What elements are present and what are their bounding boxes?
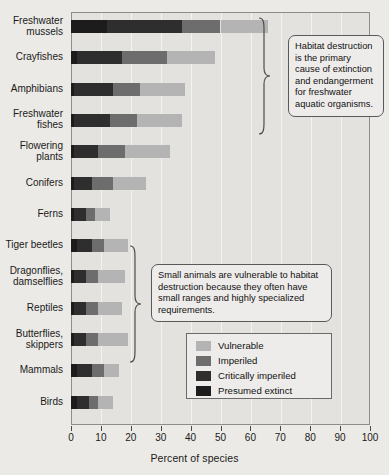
bar-segment xyxy=(71,20,107,33)
bar-segment xyxy=(86,302,98,315)
category-label: Crayfishes xyxy=(16,51,63,62)
legend-item: Vulnerable xyxy=(196,338,331,353)
bar-segment xyxy=(113,83,140,96)
legend-swatch-vulnerable xyxy=(196,341,211,351)
category-label: Freshwater mussels xyxy=(13,15,63,37)
x-tick-label: 30 xyxy=(146,432,176,443)
bar-segment xyxy=(98,270,125,283)
x-tick-label: 80 xyxy=(295,432,325,443)
bar-segment xyxy=(74,114,110,127)
bar-segment xyxy=(77,51,122,64)
chart-root: Freshwater musselsCrayfishesAmphibiansFr… xyxy=(0,0,389,475)
bar-segment xyxy=(140,83,185,96)
x-tick-label: 10 xyxy=(86,432,116,443)
annotation-small-animals-callout: Small animals are vulnerable to habitat … xyxy=(151,264,332,322)
bar-segment xyxy=(74,270,86,283)
x-tick xyxy=(221,426,222,431)
bar-segment xyxy=(92,177,113,190)
x-tick-label: 20 xyxy=(116,432,146,443)
category-label: Birds xyxy=(40,396,63,407)
bar-segment xyxy=(98,333,128,346)
bar-segment xyxy=(86,270,98,283)
x-tick-label: 50 xyxy=(206,432,236,443)
category-label: Reptiles xyxy=(27,302,63,313)
bar-segment xyxy=(74,145,98,158)
legend-label: Presumed extinct xyxy=(218,385,292,396)
bar-segment xyxy=(182,20,221,33)
bar-segment xyxy=(104,364,119,377)
bar-segment xyxy=(74,177,92,190)
bar-segment xyxy=(122,51,167,64)
category-label: Mammals xyxy=(20,364,63,375)
legend-item: Critically imperiled xyxy=(196,368,331,383)
bar-segment xyxy=(86,208,95,221)
category-label: Butterflies, skippers xyxy=(16,328,63,350)
legend-label: Vulnerable xyxy=(218,340,264,351)
bar-segment xyxy=(86,333,98,346)
x-tick-label: 0 xyxy=(56,432,86,443)
bar-segment xyxy=(95,208,110,221)
bar-segment xyxy=(167,51,215,64)
gridline xyxy=(161,13,162,424)
x-tick xyxy=(310,426,311,431)
x-tick xyxy=(161,426,162,431)
legend-label: Critically imperiled xyxy=(218,370,296,381)
bar-segment xyxy=(74,333,86,346)
category-label: Tiger beetles xyxy=(6,239,63,250)
annotation-freshwater-callout: Habitat destruction is the primary cause… xyxy=(288,35,384,117)
x-tick xyxy=(370,426,371,431)
legend-item: Presumed extinct xyxy=(196,383,331,398)
category-label: Flowering plants xyxy=(20,140,63,162)
category-label: Amphibians xyxy=(11,83,63,94)
bar-segment xyxy=(104,239,128,252)
x-tick xyxy=(101,426,102,431)
bar-segment xyxy=(113,177,146,190)
bar-segment xyxy=(110,114,137,127)
bar-segment xyxy=(125,145,170,158)
bar-segment xyxy=(98,396,113,409)
bar-segment xyxy=(74,83,113,96)
bar-segment xyxy=(74,208,86,221)
bar-segment xyxy=(77,364,92,377)
x-tick-label: 40 xyxy=(176,432,206,443)
legend-swatch-presumed-extinct xyxy=(196,386,211,396)
bar-segment xyxy=(98,302,122,315)
bar-segment xyxy=(77,396,89,409)
x-tick-label: 60 xyxy=(235,432,265,443)
bar-segment xyxy=(137,114,182,127)
x-tick xyxy=(280,426,281,431)
x-tick-label: 90 xyxy=(325,432,355,443)
category-label: Freshwater fishes xyxy=(13,108,63,130)
x-tick-label: 70 xyxy=(265,432,295,443)
x-axis-title: Percent of species xyxy=(0,452,389,464)
bar-segment xyxy=(98,145,125,158)
x-tick xyxy=(71,426,72,431)
bar-segment xyxy=(74,302,86,315)
x-tick xyxy=(191,426,192,431)
legend-swatch-critically-imperiled xyxy=(196,371,211,381)
x-tick xyxy=(340,426,341,431)
legend-label: Imperiled xyxy=(218,355,257,366)
x-tick xyxy=(250,426,251,431)
x-tick-label: 100 xyxy=(355,432,385,443)
bar-segment xyxy=(92,364,104,377)
legend-swatch-imperiled xyxy=(196,356,211,366)
bar-segment xyxy=(107,20,182,33)
x-tick xyxy=(131,426,132,431)
bar-segment xyxy=(77,239,92,252)
bar-segment xyxy=(92,239,104,252)
category-label: Conifers xyxy=(26,177,63,188)
bar-segment xyxy=(89,396,98,409)
legend-item: Imperiled xyxy=(196,353,331,368)
bracket-small-animals xyxy=(126,244,142,364)
category-label: Dragonflies, damselflies xyxy=(10,265,63,287)
bracket-freshwater xyxy=(255,16,271,136)
legend: Vulnerable Imperiled Critically imperile… xyxy=(186,333,332,399)
category-label: Ferns xyxy=(37,208,63,219)
